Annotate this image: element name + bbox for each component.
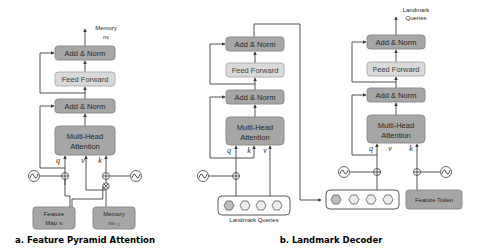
v-label-b-left: v [263,146,267,155]
svg-text:Feed Forward: Feed Forward [373,65,420,74]
landmark-queries-label: Landmark Queries [229,217,278,223]
svg-text:Map xᵢ: Map xᵢ [45,220,62,226]
feature-map-input: Feature Map xᵢ [33,207,75,229]
memory-input: Memory mᵢ₋₁ [93,207,135,229]
multi-head-attention-b-right: Multi-Head Attention [367,115,425,143]
add-norm-bottom-b-right: Add & Norm [367,88,425,102]
svg-text:Memory: Memory [103,211,125,217]
svg-text:Add & Norm: Add & Norm [235,93,276,102]
feed-forward-a: Feed Forward [55,72,115,86]
add-norm-bottom-b-left: Add & Norm [226,90,284,104]
svg-text:Attention: Attention [240,133,270,142]
k-label-b-right: k [409,144,413,153]
caption-a: a. Feature Pyramid Attention [15,235,155,245]
k-label-a: k [98,156,102,165]
q-label-b-right: q [369,144,373,153]
add-norm-top-b-right: Add & Norm [367,35,425,49]
panel-landmark-decoder-right: Landmark Queries Add & Norm Feed Forward… [339,7,463,209]
svg-text:Add & Norm: Add & Norm [235,40,276,49]
svg-text:Add & Norm: Add & Norm [65,49,106,58]
svg-text:Feature Token: Feature Token [415,197,453,203]
multi-head-attention-a: Multi-Head Attention [55,126,115,155]
add-norm-top-a: Add & Norm [55,46,115,60]
output-label-landmark: Landmark [403,7,431,13]
svg-text:Feed Forward: Feed Forward [62,75,109,84]
v-label-a: v [81,156,85,165]
output-label-memory: Memory [95,25,117,31]
v-label-b-right: v [388,144,392,153]
svg-text:mᵢ₋₁: mᵢ₋₁ [109,220,120,226]
output-label-queries: Queries [405,15,426,21]
add-norm-top-b-left: Add & Norm [226,37,284,51]
feed-forward-b-right: Feed Forward [367,62,425,76]
svg-text:Attention: Attention [381,131,411,140]
feature-token-input: Feature Token [406,190,462,209]
feed-forward-b-left: Feed Forward [226,63,284,77]
output-label-mi: mᵢ [103,34,109,40]
svg-text:Multi-Head: Multi-Head [378,121,414,130]
svg-text:Add & Norm: Add & Norm [376,91,417,100]
svg-text:Add & Norm: Add & Norm [376,38,417,47]
panel-feature-pyramid-attention: Memory mᵢ Add & Norm Feed Forward Add & … [15,25,155,245]
svg-text:Add & Norm: Add & Norm [65,102,106,111]
svg-text:Feature: Feature [44,211,65,217]
multi-head-attention-b-left: Multi-Head Attention [226,117,284,145]
q-label-b-left: q [227,146,231,155]
k-label-b-left: k [247,146,251,155]
caption-b: b. Landmark Decoder [280,235,384,245]
q-label-a: q [56,156,60,165]
intermediate-landmark-queries [326,190,399,209]
landmark-queries-input [218,196,290,215]
svg-text:Multi-Head: Multi-Head [67,132,103,141]
svg-text:Feed Forward: Feed Forward [232,66,279,75]
panel-landmark-decoder-left: Add & Norm Feed Forward Add & Norm Multi… [198,24,322,223]
svg-text:Attention: Attention [70,142,100,151]
add-norm-bottom-a: Add & Norm [55,99,115,113]
svg-text:Multi-Head: Multi-Head [237,123,273,132]
